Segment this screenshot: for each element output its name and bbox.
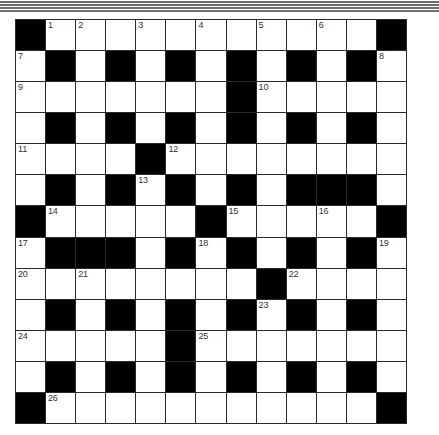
crossword-cell[interactable] bbox=[287, 393, 316, 423]
crossword-cell[interactable] bbox=[317, 393, 346, 423]
crossword-cell[interactable] bbox=[287, 20, 316, 50]
crossword-cell[interactable] bbox=[257, 144, 286, 174]
crossword-cell[interactable]: 15 bbox=[227, 206, 256, 236]
crossword-cell[interactable] bbox=[347, 206, 376, 236]
crossword-cell[interactable] bbox=[377, 113, 406, 143]
crossword-cell[interactable] bbox=[287, 331, 316, 361]
crossword-cell[interactable] bbox=[227, 331, 256, 361]
crossword-cell[interactable] bbox=[257, 238, 286, 268]
crossword-cell[interactable] bbox=[377, 269, 406, 299]
crossword-cell[interactable] bbox=[136, 51, 165, 81]
crossword-cell[interactable]: 7 bbox=[16, 51, 45, 81]
crossword-cell[interactable] bbox=[317, 51, 346, 81]
crossword-cell[interactable] bbox=[106, 144, 135, 174]
crossword-cell[interactable] bbox=[46, 82, 75, 112]
crossword-cell[interactable] bbox=[347, 82, 376, 112]
crossword-cell[interactable] bbox=[166, 393, 195, 423]
crossword-cell[interactable]: 4 bbox=[196, 20, 225, 50]
crossword-cell[interactable]: 11 bbox=[16, 144, 45, 174]
crossword-cell[interactable] bbox=[227, 20, 256, 50]
crossword-cell[interactable]: 3 bbox=[136, 20, 165, 50]
crossword-cell[interactable] bbox=[196, 269, 225, 299]
crossword-cell[interactable] bbox=[317, 362, 346, 392]
crossword-cell[interactable] bbox=[76, 113, 105, 143]
crossword-cell[interactable]: 16 bbox=[317, 206, 346, 236]
crossword-cell[interactable] bbox=[76, 51, 105, 81]
crossword-cell[interactable] bbox=[196, 300, 225, 330]
crossword-cell[interactable]: 10 bbox=[257, 82, 286, 112]
crossword-cell[interactable]: 5 bbox=[257, 20, 286, 50]
crossword-cell[interactable]: 26 bbox=[46, 393, 75, 423]
crossword-cell[interactable] bbox=[196, 51, 225, 81]
crossword-cell[interactable] bbox=[16, 300, 45, 330]
crossword-cell[interactable]: 25 bbox=[196, 331, 225, 361]
crossword-cell[interactable] bbox=[317, 144, 346, 174]
crossword-cell[interactable] bbox=[257, 51, 286, 81]
crossword-cell[interactable] bbox=[196, 113, 225, 143]
crossword-cell[interactable] bbox=[76, 206, 105, 236]
crossword-cell[interactable] bbox=[76, 331, 105, 361]
crossword-cell[interactable] bbox=[106, 20, 135, 50]
crossword-cell[interactable]: 14 bbox=[46, 206, 75, 236]
crossword-cell[interactable] bbox=[377, 300, 406, 330]
crossword-cell[interactable] bbox=[317, 300, 346, 330]
crossword-cell[interactable] bbox=[347, 20, 376, 50]
crossword-cell[interactable] bbox=[16, 362, 45, 392]
crossword-cell[interactable] bbox=[287, 144, 316, 174]
crossword-cell[interactable] bbox=[136, 331, 165, 361]
crossword-cell[interactable] bbox=[76, 82, 105, 112]
crossword-cell[interactable] bbox=[377, 362, 406, 392]
crossword-cell[interactable] bbox=[46, 144, 75, 174]
crossword-cell[interactable] bbox=[46, 269, 75, 299]
crossword-cell[interactable]: 9 bbox=[16, 82, 45, 112]
crossword-cell[interactable] bbox=[106, 269, 135, 299]
crossword-cell[interactable] bbox=[257, 331, 286, 361]
crossword-cell[interactable] bbox=[317, 269, 346, 299]
crossword-cell[interactable]: 1 bbox=[46, 20, 75, 50]
crossword-cell[interactable] bbox=[166, 269, 195, 299]
crossword-cell[interactable]: 8 bbox=[377, 51, 406, 81]
crossword-cell[interactable] bbox=[377, 144, 406, 174]
crossword-cell[interactable] bbox=[317, 238, 346, 268]
crossword-cell[interactable] bbox=[136, 113, 165, 143]
crossword-cell[interactable] bbox=[16, 113, 45, 143]
crossword-cell[interactable] bbox=[16, 175, 45, 205]
crossword-cell[interactable] bbox=[317, 82, 346, 112]
crossword-cell[interactable]: 21 bbox=[76, 269, 105, 299]
crossword-cell[interactable]: 19 bbox=[377, 238, 406, 268]
crossword-cell[interactable] bbox=[76, 393, 105, 423]
crossword-cell[interactable] bbox=[136, 82, 165, 112]
crossword-cell[interactable] bbox=[136, 393, 165, 423]
crossword-cell[interactable]: 18 bbox=[196, 238, 225, 268]
crossword-cell[interactable] bbox=[196, 393, 225, 423]
crossword-cell[interactable] bbox=[76, 175, 105, 205]
crossword-cell[interactable] bbox=[347, 331, 376, 361]
crossword-cell[interactable]: 6 bbox=[317, 20, 346, 50]
crossword-cell[interactable] bbox=[377, 82, 406, 112]
crossword-cell[interactable] bbox=[347, 144, 376, 174]
crossword-cell[interactable] bbox=[257, 393, 286, 423]
crossword-cell[interactable] bbox=[317, 331, 346, 361]
crossword-cell[interactable] bbox=[227, 144, 256, 174]
crossword-cell[interactable] bbox=[136, 362, 165, 392]
crossword-cell[interactable] bbox=[196, 144, 225, 174]
crossword-cell[interactable] bbox=[166, 82, 195, 112]
crossword-cell[interactable] bbox=[136, 206, 165, 236]
crossword-cell[interactable] bbox=[76, 300, 105, 330]
crossword-cell[interactable] bbox=[166, 20, 195, 50]
crossword-cell[interactable] bbox=[227, 269, 256, 299]
crossword-cell[interactable] bbox=[317, 113, 346, 143]
crossword-cell[interactable] bbox=[136, 269, 165, 299]
crossword-cell[interactable] bbox=[196, 362, 225, 392]
crossword-cell[interactable] bbox=[106, 331, 135, 361]
crossword-cell[interactable] bbox=[196, 175, 225, 205]
crossword-cell[interactable] bbox=[257, 206, 286, 236]
crossword-cell[interactable] bbox=[136, 300, 165, 330]
crossword-cell[interactable]: 22 bbox=[287, 269, 316, 299]
crossword-cell[interactable] bbox=[76, 362, 105, 392]
crossword-cell[interactable] bbox=[46, 331, 75, 361]
crossword-cell[interactable] bbox=[377, 331, 406, 361]
crossword-cell[interactable] bbox=[287, 206, 316, 236]
crossword-cell[interactable]: 2 bbox=[76, 20, 105, 50]
crossword-cell[interactable] bbox=[106, 393, 135, 423]
